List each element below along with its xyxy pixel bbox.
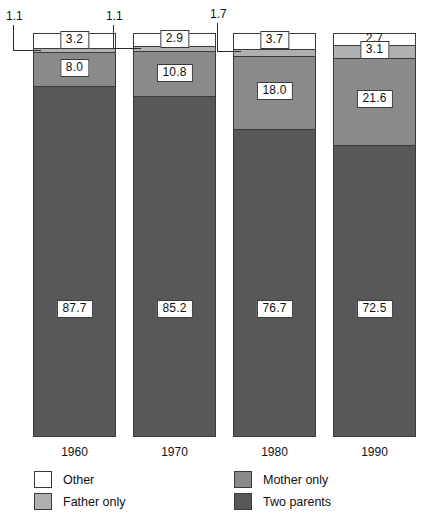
legend-label-mother-only: Mother only xyxy=(263,473,328,487)
value-label-mother-only-1960: 8.0 xyxy=(60,59,89,77)
value-label-two-parents-1970: 85.2 xyxy=(156,300,192,318)
value-label-two-parents-1990: 72.5 xyxy=(356,300,392,318)
value-label-father-only-1990: 3.1 xyxy=(360,41,389,59)
value-label-other-1980: 3.7 xyxy=(260,31,289,49)
callout-leader-horizontal-1970 xyxy=(113,48,141,49)
legend-item-other[interactable]: Other xyxy=(34,471,94,488)
legend-swatch-two-parents xyxy=(234,493,252,510)
legend-item-father-only[interactable]: Father only xyxy=(34,493,126,510)
value-label-mother-only-1970: 10.8 xyxy=(156,64,192,82)
legend-label-two-parents: Two parents xyxy=(263,495,331,509)
callout-label-father-only-1970: 1.1 xyxy=(106,10,123,23)
value-label-other-1960: 3.2 xyxy=(60,31,89,49)
value-label-mother-only-1980: 18.0 xyxy=(256,82,292,100)
callout-label-father-only-1980: 1.7 xyxy=(210,8,227,21)
callout-leader-horizontal-1960 xyxy=(13,50,41,51)
callout-leader-horizontal-1980 xyxy=(217,51,241,52)
value-label-other-1970: 2.9 xyxy=(160,30,189,48)
legend-item-mother-only[interactable]: Mother only xyxy=(234,471,328,488)
value-label-two-parents-1980: 76.7 xyxy=(256,300,292,318)
callout-leader-vertical-1960 xyxy=(13,25,14,51)
callout-leader-vertical-1980 xyxy=(217,23,218,52)
value-label-mother-only-1990: 21.6 xyxy=(356,90,392,108)
legend-swatch-mother-only xyxy=(234,471,252,488)
stacked-bar-chart: 3.2 8.0 87.7 1.1 2.9 10.8 85.2 1.1 3.7 1… xyxy=(0,0,425,512)
legend-label-father-only: Father only xyxy=(63,495,126,509)
callout-label-father-only-1960: 1.1 xyxy=(6,10,23,23)
legend-label-other: Other xyxy=(63,473,94,487)
callout-leader-vertical-1970 xyxy=(113,25,114,49)
value-label-two-parents-1960: 87.7 xyxy=(56,300,92,318)
legend-item-two-parents[interactable]: Two parents xyxy=(234,493,331,510)
legend-swatch-other xyxy=(34,471,52,488)
legend-swatch-father-only xyxy=(34,493,52,510)
